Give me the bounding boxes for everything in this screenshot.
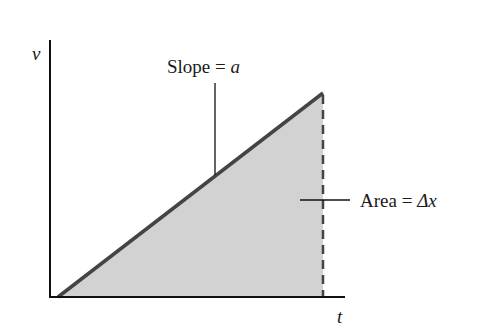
area-label: Area = Δx (360, 191, 437, 210)
vt-graph (0, 0, 480, 332)
slope-label: Slope = a (167, 57, 240, 76)
x-axis-label: t (337, 307, 342, 326)
y-axis-label: v (32, 44, 40, 63)
